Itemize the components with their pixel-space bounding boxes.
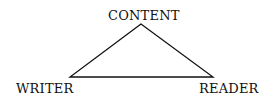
node-label-content: CONTENT: [108, 9, 180, 22]
node-label-writer: WRITER: [16, 82, 73, 95]
triangle-diagram: CONTENT WRITER READER: [0, 0, 275, 101]
node-label-reader: READER: [199, 82, 259, 95]
